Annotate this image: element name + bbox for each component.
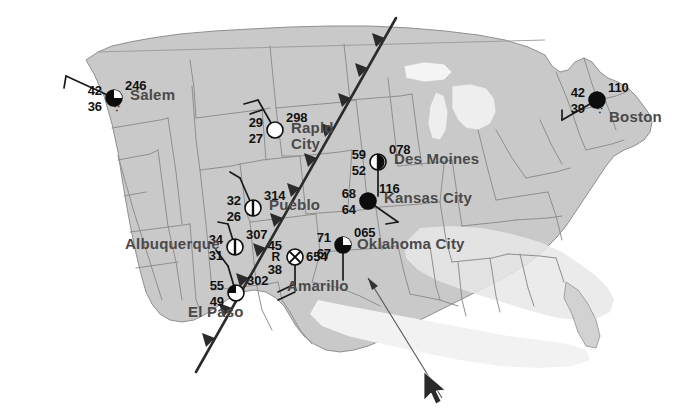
sky-cover-icon-scattered — [369, 153, 387, 171]
city-label-el-paso: El Paso — [188, 303, 244, 320]
dewpoint-value: 39 — [571, 101, 585, 116]
pressure-value: 110 — [608, 80, 629, 95]
city-label-oklahoma-city: Oklahoma City — [357, 235, 465, 252]
sky-cover-icon-few — [227, 284, 245, 302]
temperature-value: 59 — [352, 147, 366, 162]
temperature-value: 68 — [342, 186, 356, 201]
city-label-pueblo: Pueblo — [269, 196, 320, 213]
dewpoint-value: 27 — [249, 131, 263, 146]
city-label-rapid-city: Rapid City — [291, 120, 349, 152]
city-label-boston: Boston — [609, 108, 662, 125]
dewpoint-value: 36 — [88, 99, 102, 114]
dewpoint-value: 67 — [317, 246, 331, 261]
temperature-value: 29 — [249, 115, 263, 130]
pressure-value: 302 — [247, 273, 268, 288]
sky-cover-icon-clear — [266, 121, 284, 139]
dewpoint-value: 38 — [268, 262, 282, 277]
city-label-albuquerque: Albuquerque — [125, 235, 220, 252]
sky-cover-icon-broken — [105, 89, 123, 107]
temperature-value: 42 — [88, 83, 102, 98]
city-label-amarillo: Amarillo — [287, 277, 349, 294]
sky-cover-icon-scattered — [226, 238, 244, 256]
sky-cover-icon-overcast — [359, 192, 377, 210]
sky-cover-icon-broken — [334, 236, 352, 254]
city-label-des-moines: Des Moines — [394, 150, 479, 167]
temperature-value: 42 — [571, 85, 585, 100]
dewpoint-value: 26 — [227, 209, 241, 224]
temperature-value: 55 — [210, 278, 224, 293]
temperature-value: 32 — [227, 193, 241, 208]
dewpoint-value: 64 — [342, 202, 356, 217]
lake-superior — [404, 62, 452, 82]
sky-cover-icon-overcast — [588, 91, 606, 109]
map-base-layer — [0, 0, 677, 410]
city-label-salem: Salem — [130, 86, 175, 103]
temperature-value: 71 — [317, 230, 331, 245]
pressure-value: 307 — [246, 227, 267, 242]
sky-cover-icon-obscured — [286, 248, 304, 266]
city-label-kansas-city: Kansas City — [384, 189, 472, 206]
weather-map: 42 36 246 ∵ Salem 29 27 298 Rapid City 5… — [0, 0, 677, 410]
present-weather-icon: R — [271, 250, 280, 264]
dewpoint-value: 52 — [352, 163, 366, 178]
sky-cover-icon-scattered — [244, 199, 262, 217]
